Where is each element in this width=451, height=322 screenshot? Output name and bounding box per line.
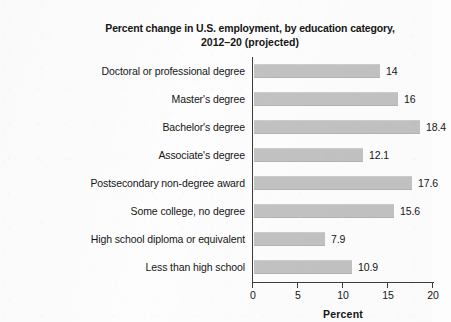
category-label: Associate's degree <box>158 141 245 169</box>
x-axis-tick <box>297 283 298 288</box>
x-axis-title: Percent <box>253 308 433 320</box>
bar-row: Doctoral or professional degree 14 <box>40 57 451 85</box>
x-axis-tick-label: 15 <box>368 289 408 301</box>
bar <box>254 260 352 274</box>
category-label: Some college, no degree <box>131 197 245 225</box>
x-axis-tick-label: 0 <box>233 289 273 301</box>
bar-value-label: 10.9 <box>358 253 378 281</box>
bar-row: High school diploma or equivalent 7.9 <box>40 225 451 253</box>
bar-row: Bachelor's degree 18.4 <box>40 113 451 141</box>
bar-value-label: 14 <box>386 57 397 85</box>
x-axis-tick-label: 5 <box>278 289 318 301</box>
bar <box>254 232 325 246</box>
category-label: Doctoral or professional degree <box>102 57 245 85</box>
bar-value-label: 18.4 <box>426 113 446 141</box>
bar-value-label: 12.1 <box>369 141 389 169</box>
bar-row: Associate's degree 12.1 <box>40 141 451 169</box>
x-axis-tick <box>342 283 343 288</box>
y-axis-line <box>252 57 253 283</box>
bar-value-label: 7.9 <box>331 225 345 253</box>
bar-row: Postsecondary non-degree award 17.6 <box>40 169 451 197</box>
bar-value-label: 16 <box>404 85 415 113</box>
bar-value-label: 17.6 <box>418 169 438 197</box>
category-label: Bachelor's degree <box>162 113 245 141</box>
category-label: High school diploma or equivalent <box>91 225 245 253</box>
bar <box>254 92 398 106</box>
category-label: Master's degree <box>172 85 245 113</box>
bar <box>254 176 412 190</box>
plot-area: Doctoral or professional degree 14 Maste… <box>40 16 451 322</box>
category-label: Postsecondary non-degree award <box>90 169 245 197</box>
bar <box>254 120 420 134</box>
x-axis-tick-label: 10 <box>323 289 363 301</box>
x-axis-tick-label: 20 <box>413 289 451 301</box>
x-axis-tick <box>432 283 433 288</box>
x-axis-tick <box>252 283 253 288</box>
bar-chart-figure: Percent change in U.S. employment, by ed… <box>40 16 451 322</box>
bar <box>254 64 380 78</box>
bar <box>254 204 394 218</box>
x-axis-tick <box>387 283 388 288</box>
bar <box>254 148 363 162</box>
category-label: Less than high school <box>146 253 245 281</box>
bar-value-label: 15.6 <box>400 197 420 225</box>
bar-row: Master's degree 16 <box>40 85 451 113</box>
bar-row: Some college, no degree 15.6 <box>40 197 451 225</box>
bar-row: Less than high school 10.9 <box>40 253 451 281</box>
